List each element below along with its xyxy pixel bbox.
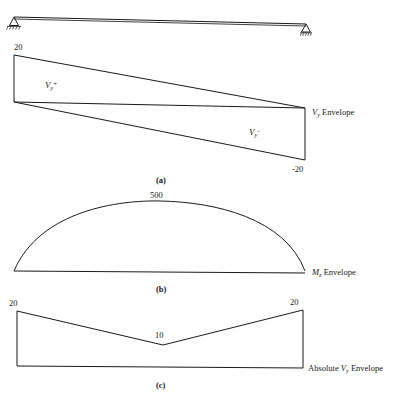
panel-c-absolute-shear-envelope: 20 10 20 Absolute Vy Envelope (c) — [9, 297, 383, 390]
engineering-figure: 20 -20 Vy+ Vy- Vy Envelope (a) 500 Mz En… — [0, 0, 398, 402]
value-20-top-right-c: 20 — [290, 297, 299, 307]
panel-b-moment-envelope: 500 Mz Envelope (b) — [14, 190, 356, 294]
region-label-vy-negative: Vy- — [249, 127, 260, 138]
region-label-vy-positive: Vy+ — [45, 80, 57, 91]
value-20-top-left: 20 — [14, 42, 23, 52]
moment-baseline — [14, 271, 305, 273]
panel-c-envelope-label: Absolute Vy Envelope — [308, 363, 383, 374]
value-10-mid: 10 — [155, 330, 164, 340]
shear-baseline — [14, 102, 305, 108]
panel-c-caption: (c) — [156, 380, 166, 390]
beam-diagram — [7, 17, 313, 36]
value-20-top-left-c: 20 — [9, 298, 18, 308]
moment-envelope-arc — [14, 201, 305, 271]
panel-a-caption: (a) — [156, 175, 166, 185]
panel-b-caption: (b) — [156, 284, 167, 294]
panel-b-envelope-label: Mz Envelope — [311, 267, 356, 278]
value-500-apex: 500 — [150, 190, 163, 200]
panel-a-envelope-label: Vy Envelope — [312, 107, 354, 118]
figure-container: 20 -20 Vy+ Vy- Vy Envelope (a) 500 Mz En… — [0, 0, 398, 402]
panel-a-shear-envelope: 20 -20 Vy+ Vy- Vy Envelope (a) — [14, 42, 354, 185]
value-neg20-bottom-right: -20 — [292, 164, 303, 174]
